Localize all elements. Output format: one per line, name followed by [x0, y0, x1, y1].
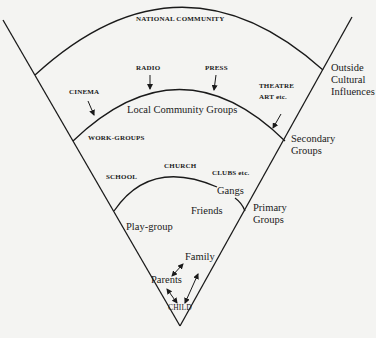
primary-line-2: Groups: [253, 214, 287, 226]
clubs-etc-label: CLUBS etc.: [212, 170, 249, 177]
outside-line-1: Outside: [331, 62, 375, 74]
parents-label: Parents: [151, 275, 182, 286]
school-label: SCHOOL: [106, 174, 137, 181]
family-label: Family: [185, 252, 215, 263]
primary-line-1: Primary: [253, 202, 287, 214]
primary-groups-label: Primary Groups: [253, 202, 287, 226]
outside-line-3: Influences: [331, 86, 375, 98]
art-etc-label: ART etc.: [259, 94, 287, 101]
secondary-line-2: Groups: [291, 145, 335, 157]
theatre-label: THEATRE: [259, 83, 294, 90]
local-community-groups-label: Local Community Groups: [127, 105, 237, 116]
theatre-arrow: [273, 114, 281, 128]
outside-cultural-influences-label: Outside Cultural Influences: [331, 62, 375, 98]
radio-label: RADIO: [136, 65, 160, 72]
press-label: PRESS: [205, 65, 228, 72]
parents-child-arrow: [167, 289, 177, 303]
press-arrow: [214, 75, 216, 90]
secondary-line-1: Secondary: [291, 133, 335, 145]
gangs-label: Gangs: [217, 186, 244, 197]
inner-arc-right: [235, 198, 245, 211]
church-label: CHURCH: [164, 163, 196, 170]
friends-label: Friends: [191, 206, 223, 217]
work-groups-label: WORK-GROUPS: [88, 135, 145, 142]
diagram-canvas: NATIONAL COMMUNITY RADIO PRESS CINEMA TH…: [0, 0, 376, 338]
play-group-label: Play-group: [126, 222, 173, 233]
secondary-groups-label: Secondary Groups: [291, 133, 335, 157]
child-family-arrow: [185, 274, 198, 303]
cinema-arrow: [88, 101, 94, 115]
cinema-label: CINEMA: [69, 89, 99, 96]
national-community-label: NATIONAL COMMUNITY: [136, 16, 224, 23]
outside-line-2: Cultural: [331, 74, 375, 86]
child-label: CHILD: [168, 304, 192, 312]
